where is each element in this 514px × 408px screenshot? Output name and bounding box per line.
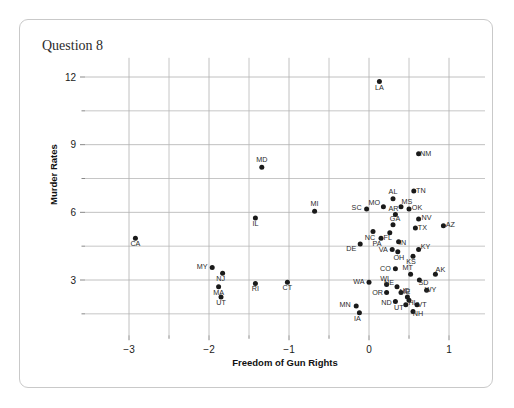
data-point	[407, 206, 412, 211]
data-point	[384, 290, 389, 295]
data-point	[259, 165, 264, 170]
data-point-label: AZ	[446, 220, 456, 229]
data-point-label: OK	[412, 203, 423, 212]
y-tick-label: 12	[65, 72, 77, 83]
data-point-label: CA	[130, 239, 140, 248]
data-point-label: AK	[436, 265, 446, 274]
x-tick-label: −2	[203, 344, 215, 355]
data-point	[391, 222, 396, 227]
data-point	[381, 204, 386, 209]
data-point-label: IN	[399, 238, 406, 247]
data-point-label: VT	[417, 300, 427, 309]
data-point	[408, 272, 413, 277]
data-point-label: DE	[346, 244, 356, 253]
data-point-label: TX	[418, 223, 427, 232]
data-point	[210, 265, 215, 270]
data-point-label: IL	[252, 219, 258, 228]
plot-svg: −3−2−10136912Freedom of Gun RightsMurder…	[20, 20, 494, 389]
data-point-label: LA	[375, 83, 384, 92]
data-point-label: UT	[216, 298, 226, 307]
y-tick-label: 9	[70, 139, 76, 150]
data-point-label: HI	[408, 298, 415, 307]
data-point-label: NH	[413, 309, 423, 318]
data-point-label: TN	[416, 186, 426, 195]
data-point-label: FL	[384, 233, 392, 242]
data-point-label: KY	[421, 242, 431, 251]
x-axis-title: Freedom of Gun Rights	[232, 357, 338, 368]
x-tick-label: 0	[366, 344, 372, 355]
data-point-label: NJ	[216, 274, 225, 283]
scatter-plot: −3−2−10136912Freedom of Gun RightsMurder…	[20, 20, 494, 389]
data-point-label: OR	[372, 288, 383, 297]
data-point-label: ND	[381, 298, 391, 307]
x-tick-label: 1	[446, 344, 452, 355]
data-point	[312, 209, 317, 214]
data-point-label: IA	[354, 314, 361, 323]
data-point-label: ID	[403, 286, 410, 295]
data-point-label: OH	[393, 253, 404, 262]
axis-labels: −3−2−10136912Freedom of Gun RightsMurder…	[48, 72, 456, 369]
data-point-label: MA	[213, 288, 224, 297]
data-point-label: NV	[422, 213, 432, 222]
y-tick-label: 3	[70, 275, 76, 286]
data-point	[416, 217, 421, 222]
data-point-label: CT	[283, 283, 293, 292]
x-tick-label: −1	[283, 344, 295, 355]
data-point-label: MD	[256, 155, 267, 164]
data-point	[391, 196, 396, 201]
data-point-label: UT	[394, 303, 404, 312]
data-point-label: NM	[420, 149, 431, 158]
data-point-label: AL	[389, 187, 398, 196]
x-tick-label: −3	[123, 344, 135, 355]
data-point-label: SC	[352, 203, 362, 212]
data-point-label: AR	[388, 204, 398, 213]
data-point-label: RI	[252, 284, 259, 293]
data-point-label: MT	[402, 263, 413, 272]
data-point-label: WY	[425, 285, 437, 294]
data-point-label: GA	[390, 214, 401, 223]
data-point-label: WA	[353, 277, 365, 286]
data-point	[390, 247, 395, 252]
data-point-label: MI	[311, 199, 319, 208]
y-tick-label: 6	[70, 207, 76, 218]
data-point-label: CO	[380, 264, 391, 273]
data-point	[393, 266, 398, 271]
data-point-label: MN	[340, 300, 351, 309]
data-point	[354, 303, 359, 308]
data-point	[358, 241, 363, 246]
data-point-label: VA	[379, 245, 388, 254]
data-point-label: MY	[197, 262, 208, 271]
data-point-label: MO	[369, 198, 381, 207]
data-point-label: NE	[384, 278, 394, 287]
data-point	[364, 206, 369, 211]
chart-card: Question 8 −3−2−10136912Freedom of Gun R…	[19, 19, 493, 388]
y-axis-title: Murder Rates	[48, 144, 59, 205]
data-point	[367, 280, 372, 285]
